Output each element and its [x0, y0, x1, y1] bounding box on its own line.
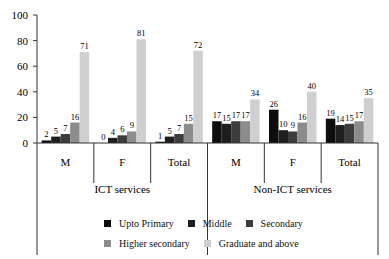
bar: [70, 123, 80, 143]
value-label: 15: [184, 113, 193, 123]
legend-item: Middle: [188, 218, 232, 229]
y-tick-label: 80: [17, 35, 29, 47]
bar: [184, 124, 194, 143]
legend-item: Upto Primary: [104, 218, 174, 229]
bar: [307, 92, 317, 143]
legend-row: Higher secondaryGraduate and above: [104, 233, 389, 253]
value-label: 0: [101, 132, 105, 142]
group-label: ICT services: [94, 183, 150, 195]
bar: [108, 138, 118, 143]
bar: [51, 137, 61, 143]
value-label: 5: [54, 126, 58, 136]
bar: [137, 39, 147, 143]
value-label: 1: [158, 131, 162, 141]
value-label: 15: [222, 113, 231, 123]
bar: [174, 134, 184, 143]
value-label: 17: [213, 110, 222, 120]
legend-label: Graduate and above: [219, 238, 299, 249]
bar: [250, 99, 260, 143]
category-label: F: [290, 156, 296, 168]
value-label: 2: [44, 129, 48, 139]
category-label: M: [61, 156, 71, 168]
bar: [127, 131, 137, 143]
bar: [212, 121, 222, 143]
value-label: 17: [232, 110, 241, 120]
y-axis: 020406080100: [12, 9, 38, 149]
value-label: 34: [251, 88, 260, 98]
y-tick-label: 20: [17, 111, 29, 123]
bar: [345, 124, 355, 143]
category-label: F: [119, 156, 125, 168]
value-label: 7: [63, 123, 67, 133]
bar: [118, 135, 128, 143]
bar: [298, 123, 308, 143]
value-label: 26: [270, 99, 279, 109]
y-tick-label: 100: [12, 9, 29, 21]
bar: [288, 131, 298, 143]
bar: [165, 137, 175, 143]
legend-swatch-icon: [204, 240, 211, 247]
bar: [61, 134, 71, 143]
legend-label: Middle: [203, 218, 232, 229]
value-label: 81: [137, 28, 146, 38]
value-label: 10: [279, 119, 288, 129]
bar: [335, 125, 345, 143]
value-label: 35: [364, 87, 373, 97]
value-label: 15: [345, 113, 354, 123]
legend-item: Higher secondary: [104, 238, 190, 249]
y-tick-label: 0: [23, 137, 29, 149]
bar: [364, 98, 374, 143]
bar: [80, 52, 90, 143]
legend-label: Upto Primary: [119, 218, 174, 229]
value-label: 14: [336, 114, 345, 124]
y-tick-label: 60: [17, 60, 29, 72]
value-label: 72: [194, 40, 203, 50]
bar: [354, 121, 364, 143]
legend-label: Higher secondary: [119, 238, 190, 249]
value-label: 6: [120, 124, 124, 134]
bars: 2571671046981157157217151717342610916401…: [42, 28, 374, 143]
bar: [269, 110, 279, 143]
legend-item: Graduate and above: [204, 238, 299, 249]
value-label: 16: [71, 112, 80, 122]
value-label: 7: [177, 123, 181, 133]
bar: [222, 124, 232, 143]
legend-row: Upto PrimaryMiddleSecondary: [104, 213, 389, 233]
category-label: Total: [168, 156, 190, 168]
legend-swatch-icon: [246, 220, 253, 227]
value-label: 17: [355, 110, 364, 120]
value-label: 16: [298, 112, 307, 122]
value-label: 19: [326, 108, 335, 118]
bar: [241, 121, 251, 143]
bar: [231, 121, 241, 143]
value-label: 5: [167, 126, 171, 136]
legend-item: Secondary: [246, 218, 303, 229]
category-label: Total: [338, 156, 360, 168]
legend-swatch-icon: [188, 220, 195, 227]
value-label: 40: [308, 81, 317, 91]
group-label: Non-ICT services: [254, 183, 332, 195]
category-label: M: [231, 156, 241, 168]
value-label: 9: [130, 120, 134, 130]
bar: [279, 130, 289, 143]
legend: Upto PrimaryMiddleSecondaryHigher second…: [104, 213, 389, 253]
legend-swatch-icon: [104, 240, 111, 247]
value-label: 4: [111, 127, 116, 137]
y-tick-label: 40: [17, 86, 29, 98]
bar: [326, 119, 336, 143]
value-label: 71: [80, 41, 89, 51]
value-label: 17: [241, 110, 250, 120]
value-label: 9: [291, 120, 295, 130]
legend-swatch-icon: [104, 220, 111, 227]
legend-label: Secondary: [261, 218, 303, 229]
bar: [193, 51, 203, 143]
